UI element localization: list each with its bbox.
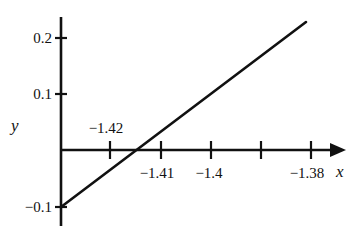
- data-line: [61, 22, 306, 207]
- y-tick-label: −0.1: [25, 199, 52, 215]
- x-axis-arrow-icon: [330, 143, 346, 157]
- y-tick-label: 0.1: [33, 86, 52, 102]
- y-tick-label: 0.2: [33, 30, 52, 46]
- y-axis-label: y: [9, 116, 19, 135]
- x-tick-label: −1.38: [290, 165, 325, 181]
- x-tick-label: −1.41: [140, 165, 175, 181]
- chart: 0.2 0.1 −0.1 −1.42 −1.41 −1.4 −1.38 y x: [0, 0, 356, 232]
- x-tick-label: −1.4: [195, 165, 223, 181]
- x-tick-label: −1.42: [89, 120, 124, 136]
- x-axis-label: x: [335, 162, 344, 181]
